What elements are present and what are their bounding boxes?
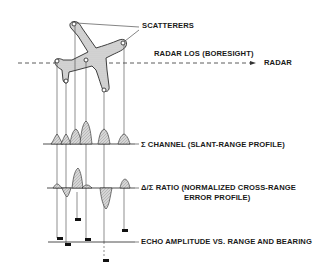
- scatterer-icon: [55, 59, 59, 63]
- radar-label: RADAR: [264, 58, 292, 67]
- echo-amplitude-label: ECHO AMPLITUDE VS. RANGE AND BEARING: [141, 237, 312, 246]
- ratio-label-line2: ERROR PROFILE): [184, 193, 250, 202]
- echo-marker-icon: [75, 218, 81, 221]
- scatterer-icon: [102, 88, 106, 92]
- echo-marker-icon: [85, 238, 91, 241]
- ratio-label-line1: Δ/Σ RATIO (NORMALIZED CROSS-RANGE: [141, 183, 296, 192]
- ratio-profile: [47, 168, 135, 209]
- scatterer-icon: [84, 58, 88, 62]
- echo-amplitude-plot: [48, 218, 135, 262]
- echo-marker-icon: [103, 259, 109, 262]
- scatterer-icon: [121, 41, 125, 45]
- echo-marker-icon: [122, 229, 128, 232]
- scatterer-icon: [64, 79, 68, 83]
- echo-marker-icon: [57, 237, 63, 240]
- echo-marker-icon: [65, 243, 71, 246]
- radar-los-line: [18, 61, 256, 65]
- sigma-channel-label: Σ CHANNEL (SLANT-RANGE PROFILE): [141, 140, 285, 149]
- scatterers-label: SCATTERERS: [142, 21, 194, 30]
- scatterer-icon: [72, 22, 76, 26]
- label-leaders: [135, 144, 139, 242]
- radar-los-label: RADAR LOS (BORESIGHT): [154, 49, 254, 58]
